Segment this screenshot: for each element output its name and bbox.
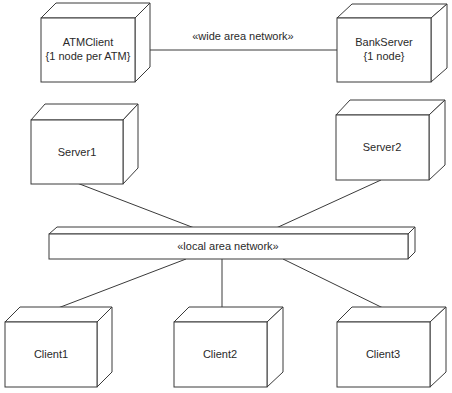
node-bankserver[interactable]: BankServer {1 node}: [337, 4, 447, 82]
node-top-face: [41, 3, 150, 18]
node-client2[interactable]: Client2: [174, 307, 283, 387]
node-multiplicity: {1 node}: [364, 50, 405, 62]
edge-server1-lan: [77, 183, 210, 234]
edge-lan-client1: [58, 259, 186, 308]
node-label: BankServer: [355, 36, 413, 48]
node-server1[interactable]: Server1: [31, 104, 138, 184]
edge-server2-lan: [263, 180, 381, 234]
node-multiplicity: {1 node per ATM}: [46, 50, 131, 62]
node-top-face: [31, 104, 138, 120]
lan-label: «local area network»: [177, 240, 279, 252]
node-label: ATMClient: [63, 36, 114, 48]
wan-label: «wide area network»: [192, 30, 294, 42]
node-atmclient[interactable]: ATMClient {1 node per ATM}: [41, 3, 150, 82]
node-label: Server1: [58, 146, 97, 158]
deployment-diagram: «wide area network» ATMClient {1 node pe…: [0, 0, 452, 393]
bar-top-face: [49, 227, 415, 234]
node-label: Client3: [366, 348, 400, 360]
node-server2[interactable]: Server2: [336, 100, 445, 180]
node-client1[interactable]: Client1: [5, 307, 112, 387]
node-top-face: [174, 307, 283, 322]
edge-lan-client3: [283, 259, 383, 308]
node-label: Client2: [203, 348, 237, 360]
node-side-face: [431, 4, 447, 82]
node-local-area-network[interactable]: «local area network»: [49, 227, 415, 259]
node-top-face: [337, 4, 447, 18]
node-client3[interactable]: Client3: [337, 307, 446, 387]
node-top-face: [336, 100, 445, 115]
node-top-face: [337, 307, 446, 322]
node-label: Client1: [34, 348, 68, 360]
node-top-face: [5, 307, 112, 322]
node-label: Server2: [363, 141, 402, 153]
